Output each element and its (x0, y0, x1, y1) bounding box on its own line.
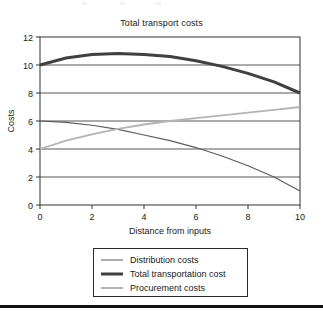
x-tick-label-0: 0 (37, 212, 42, 222)
x-tick-label-6: 6 (193, 212, 198, 222)
page-bottom-rule (0, 305, 323, 308)
y-axis-ticks (36, 37, 40, 205)
chart-legend: Distribution costs Total transportation … (93, 248, 248, 297)
y-tick-label-4: 4 (28, 145, 33, 155)
legend-label-procurement-costs: Procurement costs (130, 283, 205, 293)
x-tick-label-4: 4 (141, 212, 146, 222)
x-axis-ticks (40, 205, 300, 209)
x-axis-title: Distance from inputs (129, 226, 212, 236)
y-tick-label-12: 12 (23, 33, 33, 43)
legend-swatch-procurement-costs (101, 283, 123, 293)
x-tick-label-2: 2 (89, 212, 94, 222)
x-tick-label-8: 8 (245, 212, 250, 222)
chart-plot-area: 0 2 4 6 8 10 12 0 2 4 6 8 10 Distance fr… (0, 0, 323, 240)
figure-container: Total transport costs (0, 0, 323, 319)
y-tick-label-10: 10 (23, 61, 33, 71)
y-axis-title: Costs (6, 109, 16, 133)
y-tick-label-8: 8 (28, 89, 33, 99)
legend-label-total-transportation-cost: Total transportation cost (130, 269, 226, 279)
legend-swatch-total-transportation-cost (101, 269, 123, 279)
y-tick-label-0: 0 (28, 201, 33, 211)
legend-item-total-transportation-cost: Total transportation cost (94, 267, 247, 281)
legend-item-distribution-costs: Distribution costs (94, 253, 247, 267)
legend-item-procurement-costs: Procurement costs (94, 281, 247, 295)
legend-label-distribution-costs: Distribution costs (130, 255, 199, 265)
legend-swatch-distribution-costs (101, 255, 123, 265)
x-tick-label-10: 10 (295, 212, 305, 222)
y-tick-label-6: 6 (28, 117, 33, 127)
y-tick-label-2: 2 (28, 173, 33, 183)
